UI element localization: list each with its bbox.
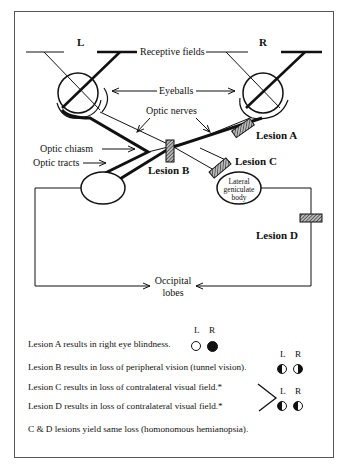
eyeballs-label: Eyeballs — [157, 85, 195, 96]
legend-a-col-l: L — [194, 325, 200, 335]
legend-b-col-l: L — [280, 349, 286, 359]
lesion-d-label: Lesion D — [256, 229, 298, 241]
optic-chiasm-label: Optic chiasm — [40, 143, 93, 154]
lesion-b-marker — [166, 140, 174, 162]
optic-tracts-label: Optic tracts — [33, 157, 79, 168]
lesion-d-marker — [300, 214, 322, 222]
legend-item-c: Lesion C results in loss of contralatera… — [28, 382, 222, 392]
field-cd-left-half-loss-icon — [277, 401, 287, 411]
left-lateral-geniculate-body — [81, 172, 125, 204]
right-eye-label: R — [259, 36, 267, 48]
field-b-left-half-loss-icon — [277, 364, 287, 374]
right-eyeball — [226, 52, 305, 119]
left-eye-label: L — [77, 36, 84, 48]
lateral-geniculate-body-label: Lateral geniculate body — [217, 178, 261, 202]
occipital-line-2: lobes — [148, 287, 198, 299]
field-a-right-full-loss-icon — [207, 341, 218, 352]
lesion-c-label: Lesion C — [235, 155, 277, 167]
field-a-left-clear-icon — [191, 341, 201, 351]
field-cd-right-half-loss-icon — [293, 401, 303, 411]
lgb-line-3: body — [217, 194, 261, 202]
field-b-right-half-loss-icon — [293, 364, 303, 374]
legend-footnote: C & D lesions yield same loss (homonomou… — [28, 424, 248, 434]
legend-item-a: Lesion A results in right eye blindness. — [28, 339, 171, 349]
legend-item-d: Lesion D results in loss of contralatera… — [28, 401, 223, 411]
legend-b-col-r: R — [295, 349, 301, 359]
legend-a-col-r: R — [209, 325, 215, 335]
legend-item-b: Lesion B results in loss of peripheral v… — [28, 362, 246, 372]
lesion-a-label: Lesion A — [256, 129, 297, 141]
occipital-line-1: Occipital — [148, 275, 198, 287]
lesion-b-label: Lesion B — [148, 164, 189, 176]
occipital-lobes-label: Occipital lobes — [148, 275, 198, 299]
legend-cd-col-l: L — [280, 386, 286, 396]
legend-cd-col-r: R — [295, 386, 301, 396]
optic-nerves-label: Optic nerves — [146, 105, 197, 116]
left-eyeball — [44, 52, 120, 118]
receptive-fields-label: Receptive fields — [139, 46, 206, 57]
